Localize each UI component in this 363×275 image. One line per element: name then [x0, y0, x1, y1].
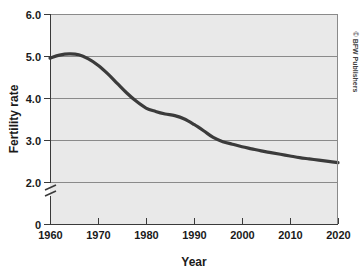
y-axis-tick-label: 6.0: [26, 9, 41, 21]
chart-svg: 02.03.04.05.06.0 19601970198019902000201…: [0, 0, 363, 275]
x-axis-tick-label: 1990: [182, 229, 206, 241]
x-axis-title: Year: [181, 255, 207, 269]
y-axis-tick-label: 5.0: [26, 51, 41, 63]
y-axis-tick-label: 3.0: [26, 135, 41, 147]
y-axis-title: Fertility rate: [7, 84, 21, 153]
x-axis-tick-label: 2010: [278, 229, 302, 241]
publisher-credit: © BFW Publishers: [352, 32, 359, 93]
x-axis-tick-label: 1960: [38, 229, 62, 241]
y-axis-tick-label: 2.0: [26, 177, 41, 189]
x-axis-tick-label: 2020: [326, 229, 350, 241]
x-axis-tick-label: 2000: [230, 229, 254, 241]
fertility-rate-chart-figure: 02.03.04.05.06.0 19601970198019902000201…: [0, 0, 363, 275]
plot-area-background: [50, 14, 338, 224]
x-axis-tick-label: 1980: [134, 229, 158, 241]
y-axis-tick-label: 4.0: [26, 93, 41, 105]
x-axis-tick-label: 1970: [86, 229, 110, 241]
